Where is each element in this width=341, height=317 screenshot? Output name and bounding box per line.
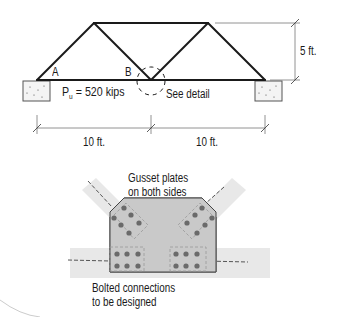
load-label: Pu = 520 kips [62, 85, 125, 98]
truss-diagram [0, 0, 341, 317]
gusset-label-line1: Gusset plates [128, 172, 188, 184]
load-value: = 520 kips [73, 84, 125, 99]
height-dimension-label: 5 ft. [300, 45, 316, 57]
bolted-label-line1: Bolted connections [92, 282, 175, 294]
load-symbol: P [62, 84, 69, 99]
height-dimension [215, 19, 300, 84]
span-right-label: 10 ft. [196, 136, 218, 148]
node-a-label: A [52, 66, 59, 78]
decorative-arc [0, 300, 40, 317]
right-support [255, 81, 282, 101]
truss-members [37, 23, 265, 80]
bolted-label-line2: to be designed [92, 296, 157, 308]
gusset-label-line2: on both sides [128, 186, 187, 198]
left-support [23, 81, 50, 101]
see-detail-label: See detail [166, 88, 210, 100]
span-left-label: 10 ft. [83, 136, 105, 148]
node-b-label: B [125, 66, 132, 78]
load-subscript: u [69, 92, 73, 101]
span-dimension [33, 115, 269, 134]
